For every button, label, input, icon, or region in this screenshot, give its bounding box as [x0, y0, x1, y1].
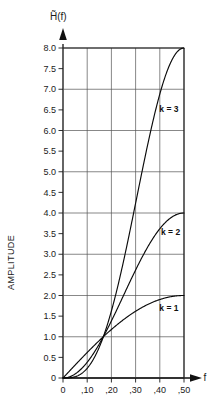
curve-annotation: k = 3 [159, 104, 178, 114]
chart-title: H̃(f) [50, 10, 67, 22]
curve-annotation: k = 2 [161, 227, 180, 237]
x-tick-label: ,20 [105, 385, 118, 395]
y-tick-label: 6.0 [43, 126, 56, 136]
x-axis-label: f [204, 372, 207, 383]
y-tick-label: 3.5 [43, 229, 56, 239]
y-tick-label: 4.5 [43, 188, 56, 198]
x-tick-label: 0 [60, 385, 65, 395]
y-tick-label: 2.5 [43, 270, 56, 280]
x-tick-label: ,10 [81, 385, 94, 395]
y-tick-label: 4.0 [43, 208, 56, 218]
y-tick-label: 5.0 [43, 167, 56, 177]
y-tick-label: 6.5 [43, 105, 56, 115]
amplitude-response-chart: AMPLITUDE H̃(f) f k = 3k = 2k = 1 00.51.… [0, 0, 215, 418]
y-tick-label: 7.0 [43, 84, 56, 94]
y-tick-label: 0 [51, 373, 56, 383]
y-tick-label: 0.5 [43, 353, 56, 363]
y-tick-label: 2.0 [43, 291, 56, 301]
x-tick-label: ,30 [129, 385, 142, 395]
curve-annotation: k = 1 [159, 303, 178, 313]
chart-background [0, 0, 215, 418]
y-tick-label: 5.5 [43, 146, 56, 156]
y-tick-label: 1.5 [43, 311, 56, 321]
y-tick-label-layer: 00.51.01.52.02.53.03.54.04.55.05.56.06.5… [43, 43, 56, 383]
chart-title-text: H̃(f) [50, 10, 67, 22]
y-tick-label: 7.5 [43, 64, 56, 74]
y-tick-label: 8.0 [43, 43, 56, 53]
y-tick-label: 3.0 [43, 249, 56, 259]
y-tick-label: 1.0 [43, 332, 56, 342]
y-axis-label: AMPLITUDE [6, 235, 16, 290]
x-tick-label: ,50 [178, 385, 191, 395]
x-tick-label: ,40 [154, 385, 167, 395]
